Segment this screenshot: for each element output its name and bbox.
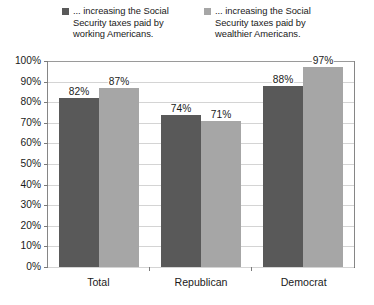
bar[interactable]: 88% [263,86,303,267]
legend-label-wealthier-americans: ... increasing the Social Security taxes… [215,5,336,40]
x-axis-category-separator [251,267,252,271]
y-axis-tick-label: 0% [26,262,41,272]
y-axis-tick [44,267,48,268]
bar-value-label: 71% [210,109,232,120]
bar[interactable]: 71% [201,121,241,267]
legend-swatch-wealthier-americans [204,8,211,15]
y-axis-tick-label: 40% [21,180,41,190]
y-axis-tick-label: 90% [21,77,41,87]
bar[interactable]: 97% [303,67,343,267]
bar-value-label: 88% [272,74,294,85]
x-axis-labels: TotalRepublicanDemocrat [47,276,355,288]
legend-swatch-working-americans [62,8,69,15]
bar-slot: 71% [201,61,241,267]
y-axis-tick-label: 30% [21,200,41,210]
bar[interactable]: 82% [59,98,99,267]
bar-chart: ... increasing the Social Security taxes… [0,0,374,305]
y-axis-tick-label: 20% [21,221,41,231]
y-axis-tick-label: 80% [21,97,41,107]
bar-groups: 82%87%74%71%88%97% [48,61,354,267]
y-axis-tick-label: 60% [21,138,41,148]
plot-area: 100%90%80%70%60%50%40%30%20%10%0% 82%87%… [47,61,355,268]
bar-value-label: 87% [108,76,130,87]
bar-value-label: 74% [170,103,192,114]
legend-item-wealthier-americans[interactable]: ... increasing the Social Security taxes… [204,5,336,40]
y-axis-tick-label: 10% [21,241,41,251]
bar-slot: 88% [263,61,303,267]
bar-slot: 74% [161,61,201,267]
x-axis-category-separator [149,267,150,271]
x-axis-category-label: Republican [150,276,253,288]
x-axis-category-label: Total [47,276,150,288]
legend-item-working-americans[interactable]: ... increasing the Social Security taxes… [62,5,194,40]
bar-group: 74%71% [150,61,252,267]
gridline [48,267,354,268]
bar-group: 88%97% [252,61,354,267]
y-axis-tick-label: 70% [21,118,41,128]
bar-value-label: 82% [68,86,90,97]
y-axis-tick-label: 100% [15,56,41,66]
x-axis-category-label: Democrat [252,276,355,288]
bar[interactable]: 87% [99,88,139,267]
bar-value-label: 97% [312,55,334,66]
bar-slot: 97% [303,61,343,267]
bar-slot: 82% [59,61,99,267]
bar-slot: 87% [99,61,139,267]
bar[interactable]: 74% [161,115,201,267]
legend-label-working-americans: ... increasing the Social Security taxes… [73,5,194,40]
bar-group: 82%87% [48,61,150,267]
y-axis-tick-label: 50% [21,159,41,169]
chart-legend: ... increasing the Social Security taxes… [62,5,342,40]
